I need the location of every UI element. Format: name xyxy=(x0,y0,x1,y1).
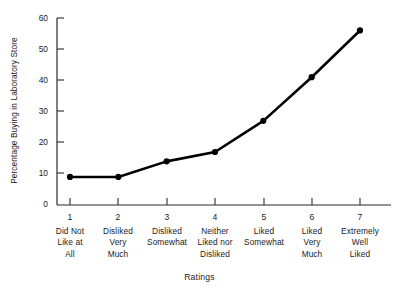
data-point xyxy=(260,118,266,124)
data-markers xyxy=(67,27,363,180)
data-point xyxy=(67,174,73,180)
x-tick-marks xyxy=(70,198,360,205)
data-point xyxy=(357,27,363,33)
data-point xyxy=(309,74,315,80)
plot-area xyxy=(0,0,399,292)
y-tick-marks xyxy=(57,18,64,173)
chart-figure: Percentage Buying in Laboratory Store 60… xyxy=(0,0,399,292)
data-point xyxy=(164,158,170,164)
data-point xyxy=(115,174,121,180)
data-point xyxy=(212,149,218,155)
